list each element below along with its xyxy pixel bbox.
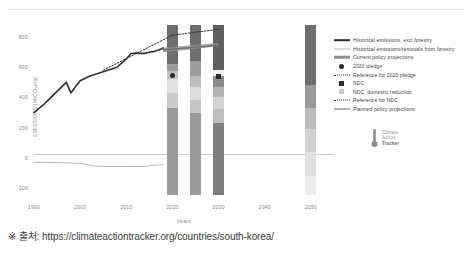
legend-swatch-thick-line: [334, 36, 350, 44]
legend-item: Historical emissions/removals from fores…: [334, 45, 472, 54]
legend-item: Reference for NDC: [334, 96, 472, 105]
series-reference-for-ndc: [172, 29, 218, 35]
legend-label: 2020 pledge: [353, 62, 382, 70]
thermometer-icon: [370, 128, 379, 148]
legend-item: Historical emissions, excl forestry: [334, 36, 472, 45]
x-tick-label: 2020: [166, 204, 178, 210]
legend-label: Reference for NDC: [353, 96, 398, 104]
legend-item: Current policy projections: [334, 53, 472, 62]
source-caption: ※ 출처: https://climateactiontracker.org/c…: [8, 228, 468, 243]
logo-line-3: Tracker: [382, 141, 399, 146]
legend-item: Planned policy projections: [334, 105, 472, 114]
y-tick-label: 600: [19, 64, 28, 70]
marker-ndc: [216, 74, 221, 79]
x-tick-label: 2050: [305, 204, 317, 210]
legend-label: Historical emissions/removals from fores…: [353, 45, 455, 53]
legend-swatch-dotted-line: [334, 96, 350, 104]
x-tick-label: 2010: [120, 204, 132, 210]
x-tick-label: 2030: [212, 204, 224, 210]
series-overlay: [34, 22, 334, 200]
legend-item: 2020 pledge: [334, 62, 472, 71]
legend-label: NDC: [353, 79, 364, 87]
x-tick-label: 1990: [28, 204, 40, 210]
chart-legend: Historical emissions, excl forestryHisto…: [334, 36, 472, 113]
legend-label: NDC, domestic reduction: [353, 88, 412, 96]
slide-canvas: EMISSIONS [MtCO₂e/a] 8006004002000-200 1…: [0, 0, 472, 254]
x-axis-label: Years: [34, 218, 334, 224]
y-tick-label: 400: [19, 94, 28, 100]
plot-area: EMISSIONS [MtCO₂e/a] 8006004002000-200 1…: [34, 22, 330, 200]
top-divider: [8, 9, 464, 10]
legend-label: Planned policy projections: [353, 105, 415, 113]
legend-swatch-dotted-line: [334, 71, 350, 79]
legend-item: Reference for 2020 pledge: [334, 70, 472, 79]
series-historical-emissions-excl-forestry: [34, 48, 163, 113]
legend-swatch-thick-band: [334, 53, 350, 61]
legend-swatch-line: [334, 105, 350, 113]
y-tick-label: 200: [19, 125, 28, 131]
y-tick-label: 0: [25, 155, 28, 161]
y-tick-label: 800: [19, 34, 28, 40]
legend-swatch-dot: [334, 62, 350, 70]
series-historical-emissions-removals-from-forestry: [34, 162, 163, 166]
legend-label: Reference for 2020 pledge: [353, 71, 416, 79]
x-tick-label: 2000: [74, 204, 86, 210]
legend-swatch-thin-line: [334, 45, 350, 53]
legend-swatch-square-light: [334, 88, 350, 96]
series-reference-for-2020-pledge: [103, 35, 172, 70]
legend-item: NDC, domestic reduction: [334, 88, 472, 97]
legend-label: Historical emissions, excl forestry: [353, 36, 432, 44]
y-tick-label: -200: [17, 185, 28, 191]
logo-wordmark: Climate Action Tracker: [382, 130, 399, 146]
legend-swatch-square: [334, 79, 350, 87]
chart-figure: EMISSIONS [MtCO₂e/a] 8006004002000-200 1…: [0, 14, 472, 222]
climate-action-tracker-logo: Climate Action Tracker: [370, 126, 430, 150]
x-tick-label: 2040: [259, 204, 271, 210]
legend-item: NDC: [334, 79, 472, 88]
legend-label: Current policy projections: [353, 53, 413, 61]
